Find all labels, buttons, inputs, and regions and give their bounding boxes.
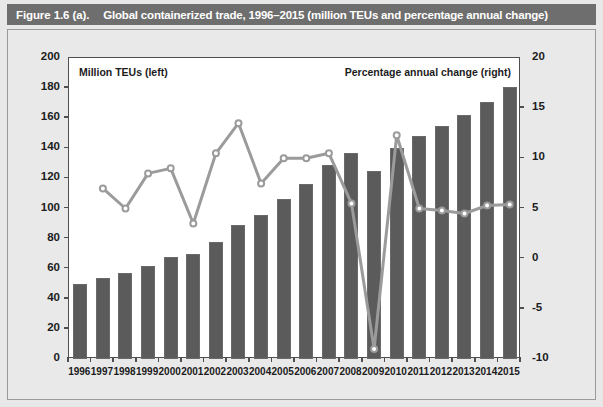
left-axis-tick-label: 40 [26,292,60,304]
bar [96,278,110,359]
line-marker [145,170,151,176]
line-marker [190,221,196,227]
legend-label-million-teus: Million TEUs (left) [79,67,168,78]
line-marker [100,185,106,191]
bar [503,87,517,359]
x-axis-tick-label: 2015 [493,367,525,377]
left-axis-tick-label: 180 [26,81,60,93]
right-axis-tick-label: 5 [532,202,566,214]
right-axis-tick-label: -10 [532,352,566,364]
right-axis-tick-label: 15 [532,101,566,113]
figure-number: Figure 1.6 (a). [16,9,89,21]
right-axis-tick-label: 20 [532,51,566,63]
left-axis-tick-label: 100 [26,202,60,214]
bar [141,266,155,359]
bar [367,171,381,359]
bar [435,126,449,359]
line-marker [303,155,309,161]
right-axis-tick-label: 0 [532,252,566,264]
figure-title-bar: Figure 1.6 (a). Global containerized tra… [7,4,596,25]
line-marker [258,180,264,186]
bar [231,225,245,359]
bar [118,273,132,359]
bar [480,102,494,359]
bar [186,254,200,359]
chart-frame: 020406080100120140160180200 -10-50510152… [7,29,596,400]
left-axis-tick-label: 0 [26,352,60,364]
left-axis-tick-label: 20 [26,322,60,334]
bar [73,284,87,359]
bar [390,148,404,359]
left-axis-tick-label: 120 [26,171,60,183]
bar [412,136,426,359]
bar [299,184,313,359]
left-axis-tick-label: 200 [26,51,60,63]
figure-caption: Global containerized trade, 1996–2015 (m… [103,9,548,21]
line-marker [123,206,129,212]
bar [254,215,268,359]
right-axis-tick-label: 10 [532,151,566,163]
left-axis-tick-label: 60 [26,262,60,274]
line-marker [236,120,242,126]
line-marker [394,132,400,138]
bar [344,153,358,359]
line-marker [213,150,219,156]
right-axis-tick-label: -5 [532,302,566,314]
figure-screenshot: Figure 1.6 (a). Global containerized tra… [0,0,603,407]
line-marker [281,155,287,161]
left-axis-tick-label: 160 [26,111,60,123]
legend-label-percentage-change: Percentage annual change (right) [345,67,511,78]
line-series [69,58,521,359]
bar [322,165,336,359]
line-marker [168,165,174,171]
line-marker [326,150,332,156]
bar [277,199,291,359]
bar [457,115,471,359]
left-axis-tick-label: 140 [26,141,60,153]
bar [164,257,178,359]
plot-area: Million TEUs (left) Percentage annual ch… [68,57,520,358]
bar [209,242,223,359]
left-axis-tick-label: 80 [26,232,60,244]
